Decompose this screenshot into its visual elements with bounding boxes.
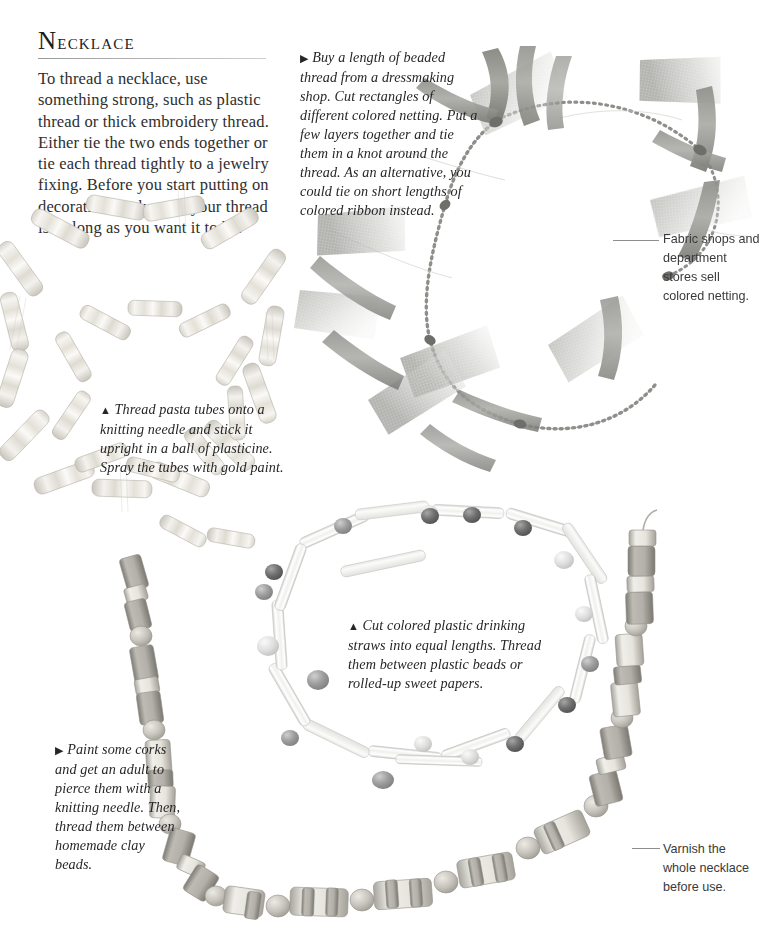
caption-straws: ▲ Cut colored plastic drinking straws in…	[348, 616, 558, 693]
caption-corks: ▶ Paint some corks and get an adult to p…	[55, 740, 185, 874]
caption-netting: ▶ Buy a length of beaded thread from a d…	[300, 48, 482, 220]
book-page: Necklace To thread a necklace, use somet…	[0, 0, 765, 932]
annotation-fabric-shops: Fabric shops and department stores sell …	[663, 230, 763, 306]
caption-pasta-text: Thread pasta tubes onto a knitting needl…	[100, 401, 284, 475]
intro-paragraph: To thread a necklace, use something stro…	[38, 68, 282, 238]
triangle-right-icon-2: ▶	[55, 744, 63, 756]
leader-line-fabric	[613, 240, 659, 241]
caption-pasta: ▲ Thread pasta tubes onto a knitting nee…	[100, 400, 294, 477]
triangle-up-icon-2: ▲	[348, 620, 359, 632]
pasta-necklace-illustration	[0, 186, 288, 549]
triangle-right-icon: ▶	[300, 52, 308, 64]
caption-corks-text: Paint some corks and get an adult to pie…	[55, 741, 180, 872]
page-title-rest: ecklace	[57, 30, 135, 54]
page-title-initial: N	[38, 27, 57, 54]
caption-netting-text: Buy a length of beaded thread from a dre…	[300, 49, 478, 218]
page-title: Necklace	[38, 27, 135, 55]
title-divider	[38, 58, 266, 59]
annotation-varnish: Varnish the whole necklace before use.	[663, 840, 759, 897]
cork-necklace-illustration	[119, 510, 657, 920]
caption-straws-text: Cut colored plastic drinking straws into…	[348, 617, 541, 691]
leader-line-varnish	[632, 848, 660, 849]
triangle-up-icon: ▲	[100, 404, 111, 416]
